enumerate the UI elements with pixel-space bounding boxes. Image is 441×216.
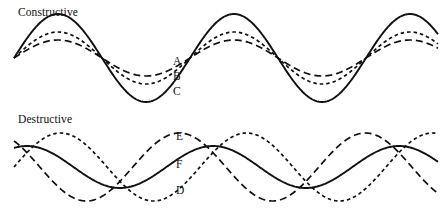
curve-c-path (14, 14, 438, 102)
curve-label-c: C (173, 85, 181, 97)
curve-label-e: E (176, 130, 183, 142)
panel-title-constructive: Constructive (18, 6, 78, 18)
constructive-curve-group (14, 14, 438, 102)
panel-title-destructive: Destructive (18, 113, 72, 125)
curve-d-path (14, 133, 438, 201)
curve-f-path (14, 146, 438, 188)
curve-label-b: B (173, 70, 181, 82)
destructive-curve-group (14, 133, 438, 201)
curve-b-path (14, 32, 438, 84)
curve-e-path (14, 133, 438, 201)
curve-label-a: A (173, 55, 181, 67)
wave-interference-figure: Constructive Destructive A B C E F D (0, 0, 441, 216)
curve-label-f: F (176, 158, 182, 170)
curve-label-d: D (176, 184, 184, 196)
wave-plot-area (0, 0, 441, 216)
